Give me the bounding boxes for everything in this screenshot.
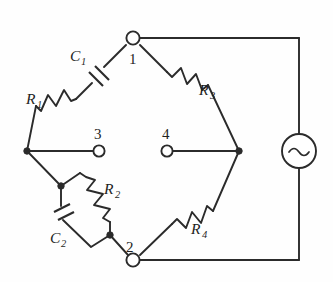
wire-c1-to-r1 xyxy=(76,83,92,99)
terminal-node-3[interactable] xyxy=(93,145,104,156)
circuit-schematic-canvas: C 1 R 1 R 3 R 2 C 2 R 4 1 2 3 4 xyxy=(0,0,333,282)
wire-left-vertex-to-parallel-top xyxy=(27,151,61,186)
label-c2: C 2 xyxy=(50,229,67,249)
node-3-label: 3 xyxy=(94,126,102,142)
label-c1: C 1 xyxy=(70,47,86,67)
node-1-label: 1 xyxy=(129,51,137,67)
r2-label-letter: R xyxy=(103,180,114,197)
r1-label-subscript: 1 xyxy=(37,99,42,110)
c2-plate-upper xyxy=(54,204,70,212)
c1-plate-upper xyxy=(95,66,109,80)
r3-label-letter: R xyxy=(198,81,209,98)
wire-r4-to-right-vertex xyxy=(213,151,239,211)
wire-node1-to-c1 xyxy=(104,45,126,67)
terminal-node-1[interactable] xyxy=(126,31,139,44)
r4-label-subscript: 4 xyxy=(202,229,208,240)
wire-node2-to-r4 xyxy=(140,224,172,255)
label-r3: R 3 xyxy=(198,81,215,101)
terminal-node-2[interactable] xyxy=(126,253,139,266)
label-r2: R 2 xyxy=(103,180,121,200)
node-4-label: 4 xyxy=(162,126,170,142)
c1-label-subscript: 1 xyxy=(81,56,86,67)
circuit-diagram: C 1 R 1 R 3 R 2 C 2 R 4 1 2 3 4 xyxy=(0,0,333,282)
r2-label-subscript: 2 xyxy=(115,189,121,200)
r4-label-letter: R xyxy=(190,220,201,237)
node-2-label: 2 xyxy=(126,239,134,255)
c2-label-subscript: 2 xyxy=(61,238,67,249)
wire-c2-exit xyxy=(63,220,110,247)
r1-label-letter: R xyxy=(25,90,36,107)
wire-node1-to-r3 xyxy=(140,45,167,72)
wire-r1-to-left-vertex xyxy=(27,106,36,151)
label-r1: R 1 xyxy=(25,90,42,110)
c2-label-letter: C xyxy=(50,229,61,246)
terminal-node-4[interactable] xyxy=(161,145,172,156)
r3-label-subscript: 3 xyxy=(209,90,215,101)
c2-plate-lower xyxy=(58,212,74,220)
wire-r2-entry xyxy=(61,173,80,186)
label-r4: R 4 xyxy=(190,220,208,240)
c1-label-letter: C xyxy=(70,47,81,64)
